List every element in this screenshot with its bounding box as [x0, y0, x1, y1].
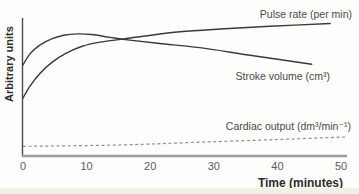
stroke-volume-line — [23, 34, 312, 65]
plot-area — [0, 0, 359, 194]
x-tick-label: 40 — [266, 160, 288, 172]
cardiac-output-line — [23, 137, 347, 146]
x-tick-label: 30 — [203, 160, 225, 172]
pulse-rate-label: Pulse rate (per min) — [260, 8, 352, 20]
x-tick-label: 20 — [139, 160, 161, 172]
x-tick-label: 0 — [12, 160, 34, 172]
x-tick-label: 50 — [330, 160, 352, 172]
exercise-physiology-chart: Arbitrary units Pulse rate (per min) Str… — [0, 0, 359, 194]
cardiac-output-label: Cardiac output (dm³/min⁻¹) — [226, 120, 351, 132]
x-tick-label: 10 — [76, 160, 98, 172]
stroke-volume-label: Stroke volume (cm³) — [235, 70, 330, 82]
page-edge-artifact — [0, 188, 359, 194]
y-axis-title: Arbitrary units — [3, 19, 17, 109]
